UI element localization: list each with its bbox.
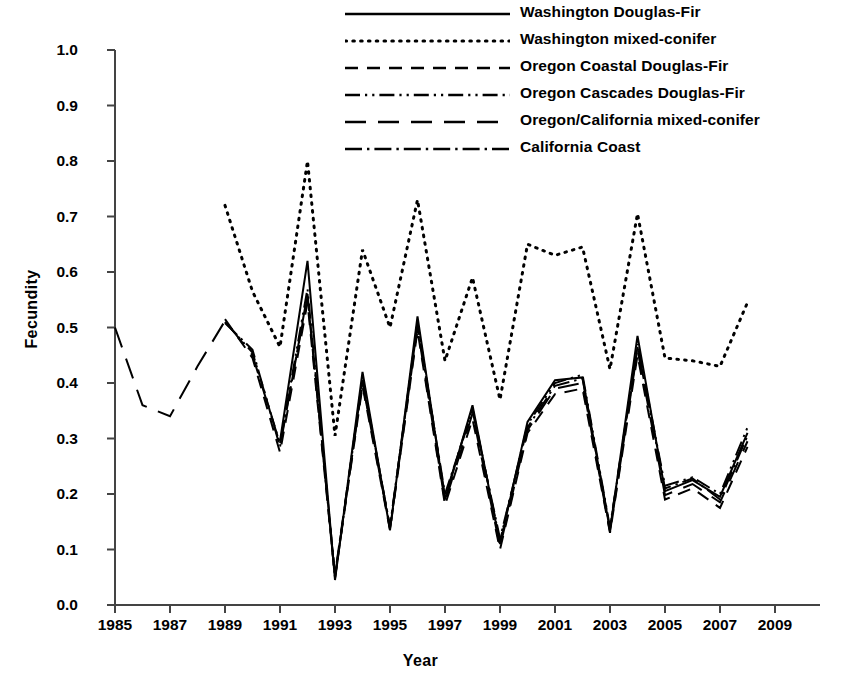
y-tick-label: 0.3: [36, 430, 78, 448]
series-line: [225, 161, 748, 436]
x-tick-label: 2007: [690, 616, 750, 634]
y-axis-title: Fecundity: [23, 249, 41, 369]
x-axis-title: Year: [0, 652, 841, 670]
y-tick-label: 0.1: [36, 541, 78, 559]
x-tick-label: 1993: [305, 616, 365, 634]
chart-root: Washington Douglas-FirWashington mixed-c…: [0, 0, 841, 688]
plot-canvas: [0, 0, 841, 688]
y-tick-label: 1.0: [36, 41, 78, 59]
x-tick-label: 1995: [360, 616, 420, 634]
y-tick-label: 0.0: [36, 596, 78, 614]
x-tick-label: 2001: [525, 616, 585, 634]
x-axis-tick-labels: 1985198719891991199319951997199920012003…: [0, 616, 841, 640]
x-tick-label: 1997: [415, 616, 475, 634]
x-tick-label: 1989: [195, 616, 255, 634]
x-tick-label: 1987: [140, 616, 200, 634]
x-tick-label: 2009: [745, 616, 805, 634]
y-tick-label: 0.4: [36, 374, 78, 392]
x-tick-label: 1999: [470, 616, 530, 634]
x-tick-label: 2003: [580, 616, 640, 634]
x-tick-label: 2005: [635, 616, 695, 634]
series-line: [280, 261, 748, 580]
x-tick-label: 1985: [85, 616, 145, 634]
y-tick-label: 0.8: [36, 152, 78, 170]
series-line: [225, 289, 748, 579]
x-tick-label: 1991: [250, 616, 310, 634]
plot-area: [0, 0, 841, 688]
y-tick-label: 0.6: [36, 263, 78, 281]
y-tick-label: 0.9: [36, 97, 78, 115]
y-tick-label: 0.2: [36, 485, 78, 503]
y-tick-label: 0.7: [36, 208, 78, 226]
y-tick-label: 0.5: [36, 319, 78, 337]
